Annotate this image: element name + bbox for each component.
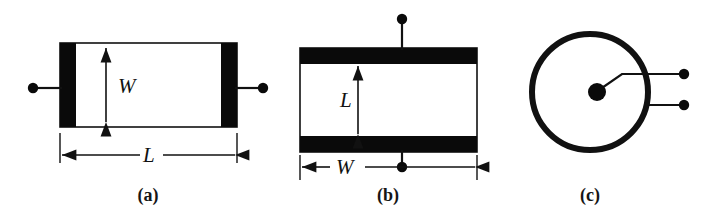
panel-b-length-label: L	[339, 88, 352, 112]
panel-c-center-electrode-dot	[588, 83, 606, 101]
panel-a-right-electrode	[221, 43, 237, 127]
panel-b-top-terminal-dot	[397, 14, 407, 24]
panel-a-right-terminal-dot	[258, 83, 268, 93]
panel-c-caption: (c)	[580, 185, 600, 206]
panel-a: W L (a)	[28, 43, 268, 206]
figure-container: W L (a) L	[0, 0, 713, 219]
panel-c-lower-terminal-dot	[679, 100, 689, 110]
panel-b: L W (b)	[300, 14, 477, 206]
panel-b-width-label: W	[336, 155, 356, 179]
panel-b-top-electrode	[300, 48, 477, 64]
panel-c: (c)	[532, 34, 689, 206]
panel-a-width-label: W	[118, 74, 138, 98]
panel-a-left-electrode	[60, 43, 76, 127]
panel-b-bottom-electrode	[300, 136, 477, 152]
panel-c-upper-terminal-dot	[679, 69, 689, 79]
panel-b-caption: (b)	[377, 185, 399, 206]
figure-diagram: W L (a) L	[0, 0, 713, 219]
panel-a-body-rect	[60, 43, 237, 127]
panel-a-length-label: L	[142, 143, 155, 167]
panel-a-caption: (a)	[138, 185, 159, 206]
panel-a-left-terminal-dot	[28, 83, 38, 93]
